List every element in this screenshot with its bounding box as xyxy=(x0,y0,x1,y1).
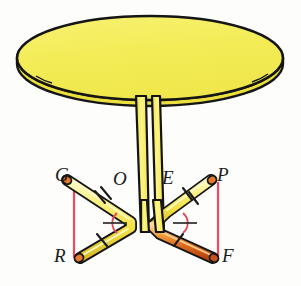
table-top xyxy=(17,16,283,100)
figure-canvas: G O E P R F xyxy=(0,0,301,286)
point-label-R: R xyxy=(54,246,66,265)
point-label-G: G xyxy=(55,165,69,184)
point-label-P: P xyxy=(217,165,229,184)
point-label-E: E xyxy=(162,168,174,187)
point-label-F: F xyxy=(222,246,234,265)
column-pipe-right-front xyxy=(153,200,164,232)
column-pipe-left-front xyxy=(141,200,149,232)
table-top-group xyxy=(17,16,283,106)
point-label-O: O xyxy=(113,169,127,188)
table-geometry-figure xyxy=(0,0,301,286)
